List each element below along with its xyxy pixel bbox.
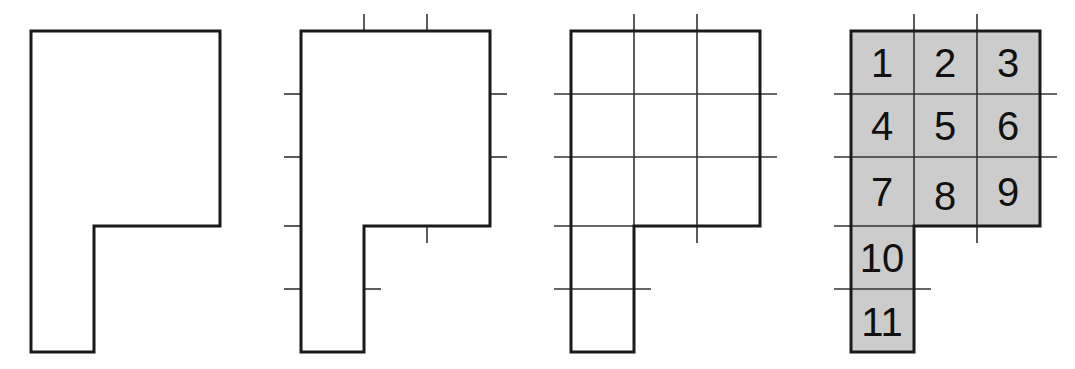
cell-number-3: 3 (997, 41, 1019, 85)
cell-number-2: 2 (934, 41, 956, 85)
panel-outline (0, 0, 270, 369)
cell-number-10: 10 (860, 236, 905, 280)
cell-number-5: 5 (934, 104, 956, 148)
panel-outline-canvas (0, 0, 270, 369)
cell-number-11: 11 (861, 300, 903, 344)
cell-number-1: 1 (871, 41, 893, 85)
tick-marks-group (284, 14, 507, 289)
cell-number-8: 8 (934, 174, 956, 218)
figure-strip: 1 2 3 4 5 6 7 8 9 10 11 (0, 0, 1075, 369)
cell-number-6: 6 (997, 104, 1019, 148)
cell-number-4: 4 (871, 104, 893, 148)
panel-grid-canvas (540, 0, 820, 369)
shape-outline (301, 31, 490, 352)
shape-outline (31, 31, 220, 352)
cell-number-7: 7 (871, 170, 893, 214)
cell-number-9: 9 (997, 170, 1019, 214)
panel-numbered: 1 2 3 4 5 6 7 8 9 10 11 (820, 0, 1075, 369)
shape-outline (571, 31, 760, 352)
panel-grid (540, 0, 820, 369)
panel-numbered-canvas: 1 2 3 4 5 6 7 8 9 10 11 (820, 0, 1075, 369)
panel-ticks (270, 0, 540, 369)
grid-lines-group (554, 14, 777, 352)
panel-ticks-canvas (270, 0, 540, 369)
